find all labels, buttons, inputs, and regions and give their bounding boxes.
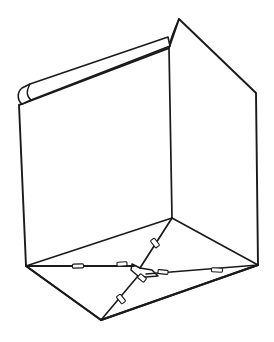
notch-right-inner bbox=[158, 270, 168, 275]
notch-left-fold bbox=[72, 264, 83, 268]
figure-root bbox=[0, 0, 274, 342]
notch-right-fold bbox=[211, 268, 222, 273]
open-box-line-drawing bbox=[0, 0, 274, 342]
notch-left-inner bbox=[117, 262, 127, 267]
